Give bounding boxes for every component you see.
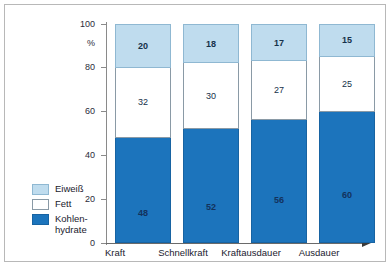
legend-swatch-fat-icon xyxy=(32,199,49,210)
segment-value: 18 xyxy=(206,39,216,49)
segment-protein: 15 xyxy=(319,24,375,57)
segment-value: 27 xyxy=(274,85,284,95)
bar-kraftausdauer[interactable]: 17 27 56 xyxy=(251,24,307,243)
bar-kraft[interactable]: 20 32 48 xyxy=(115,24,171,243)
y-tick-label-40: 40 xyxy=(61,150,95,160)
segment-value: 48 xyxy=(138,208,148,218)
segment-value: 32 xyxy=(138,97,148,107)
legend: Eiweiß Fett Kohlen- hydrate xyxy=(32,183,88,238)
segment-fat: 25 xyxy=(319,57,375,112)
segment-protein: 17 xyxy=(251,24,307,61)
segment-carbohydrate: 48 xyxy=(115,138,171,243)
y-tick-label-80: 80 xyxy=(61,62,95,72)
segment-value: 60 xyxy=(342,190,352,200)
legend-label: Fett xyxy=(55,198,71,209)
bar-schnellkraft[interactable]: 18 30 52 xyxy=(183,24,239,243)
x-category-label-ausdauer: Ausdauer xyxy=(269,247,369,258)
legend-label: Eiweiß xyxy=(55,183,84,194)
segment-carbohydrate: 52 xyxy=(183,129,239,243)
segment-value: 17 xyxy=(274,38,284,48)
y-axis-unit-label: % xyxy=(61,38,95,48)
segment-carbohydrate: 56 xyxy=(251,120,307,243)
legend-swatch-carbohydrate-icon xyxy=(32,214,49,225)
x-axis-line xyxy=(106,243,364,244)
plot-area: 20 32 48 18 30 52 17 27 xyxy=(106,24,373,243)
segment-value: 30 xyxy=(206,91,216,101)
bar-ausdauer[interactable]: 15 25 60 xyxy=(319,24,375,243)
segment-fat: 32 xyxy=(115,68,171,138)
legend-swatch-protein-icon xyxy=(32,184,49,195)
segment-value: 20 xyxy=(138,41,148,51)
legend-label-line2: hydrate xyxy=(55,224,87,235)
segment-value: 25 xyxy=(342,79,352,89)
segment-value: 15 xyxy=(342,35,352,45)
legend-item-fat[interactable]: Fett xyxy=(32,198,88,210)
segment-protein: 20 xyxy=(115,24,171,68)
y-tick-label-100: 100 xyxy=(61,19,95,29)
segment-fat: 30 xyxy=(183,63,239,129)
segment-carbohydrate: 60 xyxy=(319,112,375,243)
segment-value: 56 xyxy=(274,195,284,205)
legend-item-carbohydrate[interactable]: Kohlen- hydrate xyxy=(32,213,88,235)
y-tick-label-60: 60 xyxy=(61,106,95,116)
segment-protein: 18 xyxy=(183,24,239,63)
legend-label-line1: Kohlen- xyxy=(55,213,88,224)
chart-frame: % 100 80 60 40 20 0 20 32 48 18 xyxy=(4,4,386,262)
legend-item-protein[interactable]: Eiweiß xyxy=(32,183,88,195)
segment-fat: 27 xyxy=(251,61,307,120)
segment-value: 52 xyxy=(206,202,216,212)
